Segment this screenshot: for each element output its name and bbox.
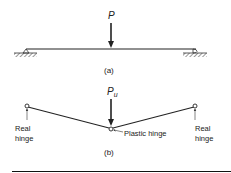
load-arrow-icon (108, 23, 114, 48)
right-real-hinge-icon (193, 104, 197, 108)
figure-b: Pu Real hinge Real hinge Plastic hi (15, 86, 213, 157)
caption-b: (b) (104, 148, 114, 157)
caption-a: (a) (104, 66, 114, 75)
right-hinge-leader-icon (194, 109, 196, 121)
left-hinge-label-line1: Real (15, 124, 31, 133)
plastic-hinge-leader-icon (114, 129, 124, 132)
plastic-hinge-label: Plastic hinge (124, 129, 167, 138)
left-real-hinge-icon (25, 104, 29, 108)
left-hinge-label-line2: hinge (15, 134, 33, 143)
figure-a: P (a) (14, 10, 207, 75)
right-hinge-label-line2: hinge (195, 134, 213, 143)
left-hinge-leader-icon (26, 109, 28, 121)
right-hinge-label-line1: Real (195, 124, 211, 133)
beam-diagram: P (a) Pu (0, 0, 231, 173)
load-label-p: P (108, 10, 115, 21)
roller-support-icon (183, 49, 207, 57)
plastic-hinge-icon (109, 127, 113, 131)
mechanism-left-segment (28, 107, 109, 128)
pin-support-icon (14, 49, 37, 57)
mechanism-right-segment (113, 107, 194, 128)
collapse-load-arrow-icon (108, 99, 114, 126)
load-label-pu: Pu (107, 86, 118, 98)
